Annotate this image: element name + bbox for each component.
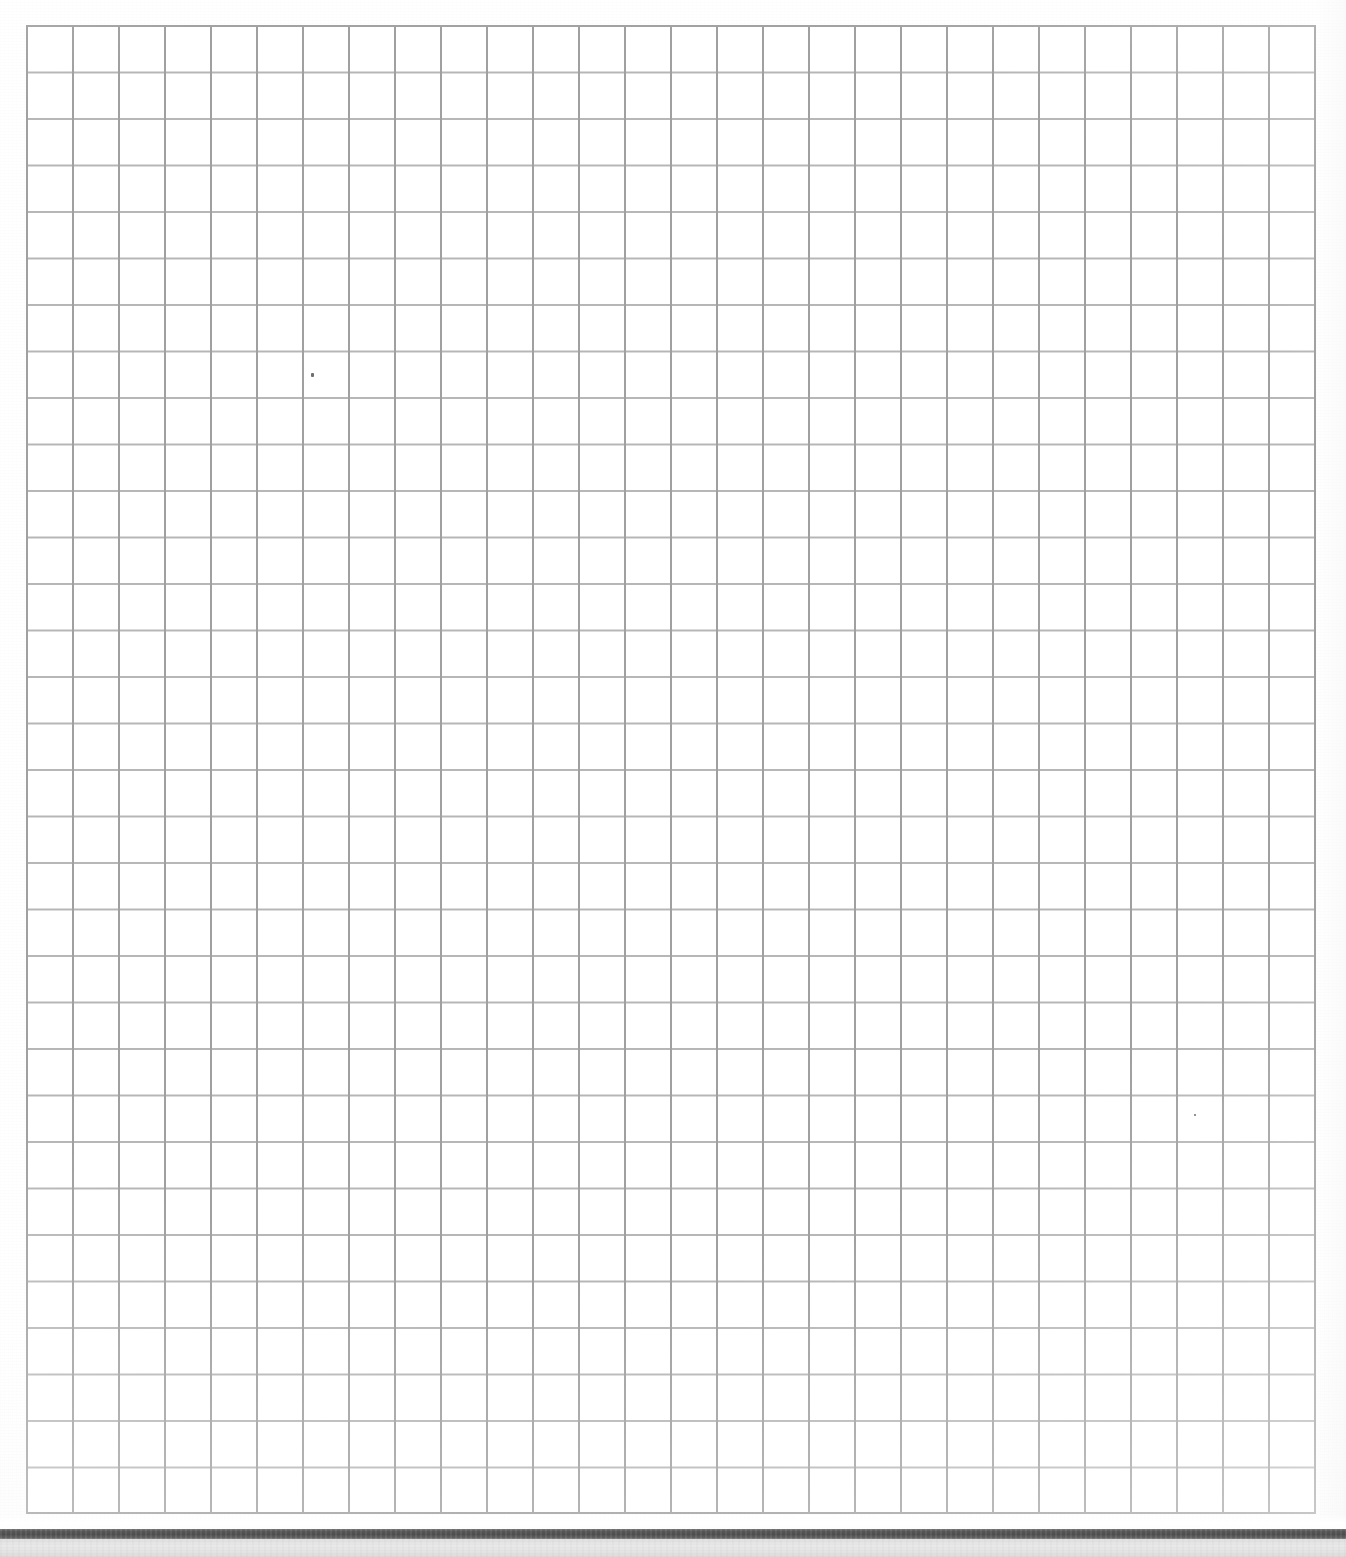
scanned-page bbox=[0, 0, 1346, 1557]
shadow-bar-grain bbox=[0, 1529, 1346, 1539]
under-bar-grain bbox=[0, 1539, 1346, 1557]
scanner-edge-shadow-bar bbox=[0, 1529, 1346, 1539]
toner-speck bbox=[311, 373, 314, 377]
page-edge-highlight bbox=[0, 1514, 1346, 1529]
grid-outer-border bbox=[26, 25, 1316, 1514]
toner-speck bbox=[1194, 1114, 1196, 1116]
graph-paper-grid bbox=[26, 25, 1316, 1514]
under-bar-gray-strip bbox=[0, 1539, 1346, 1557]
